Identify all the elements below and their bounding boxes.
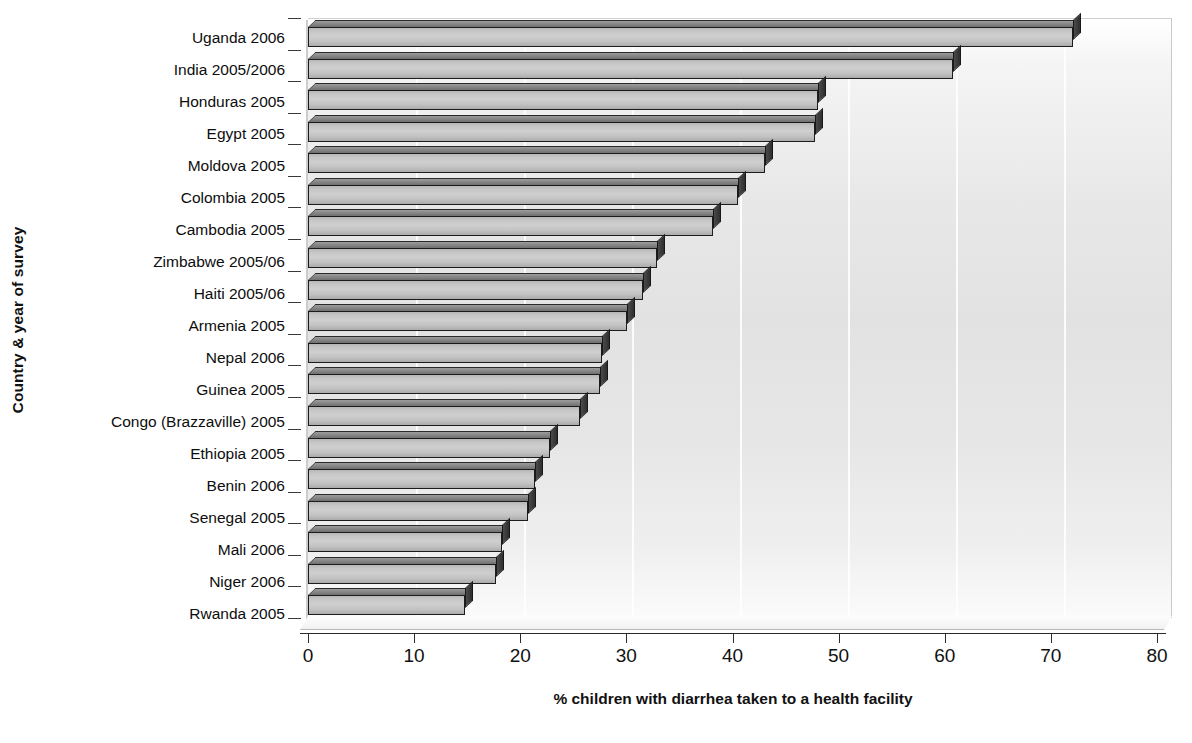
bar[interactable] — [308, 460, 543, 492]
bar-top-face — [308, 115, 822, 122]
bar[interactable] — [308, 397, 588, 429]
bar[interactable] — [308, 207, 721, 239]
y-tick-mark — [288, 207, 301, 208]
bar-front-face — [308, 153, 765, 173]
bar[interactable] — [308, 555, 504, 587]
bar[interactable] — [308, 81, 826, 113]
category-label: Congo (Brazzaville) 2005 — [36, 406, 294, 438]
y-tick-mark — [288, 523, 301, 524]
category-label: Rwanda 2005 — [36, 598, 294, 630]
plot-floor — [300, 616, 1172, 630]
bar-front-face — [308, 248, 657, 268]
bar-top-face — [308, 273, 651, 280]
bar[interactable] — [308, 271, 651, 303]
bar-top-face — [308, 146, 773, 153]
bar-side-face — [1073, 13, 1081, 40]
bar-side-face — [713, 202, 721, 229]
bar-row — [308, 492, 1172, 524]
bar[interactable] — [308, 50, 961, 82]
gridline — [1172, 19, 1174, 618]
bar[interactable] — [308, 239, 665, 271]
y-tick-mark — [288, 334, 301, 335]
y-tick-mark — [288, 176, 301, 177]
bar-top-face — [308, 178, 746, 185]
bar-top-face — [308, 336, 610, 343]
y-axis-title-text: Country & year of survey — [9, 227, 27, 414]
y-tick-mark — [288, 50, 301, 51]
category-label: Honduras 2005 — [36, 86, 294, 118]
bar-front-face — [308, 343, 602, 363]
x-tick-mark — [733, 633, 734, 643]
bar-front-face — [308, 90, 818, 110]
bar[interactable] — [308, 429, 558, 461]
bar-front-face — [308, 564, 496, 584]
bar-top-face — [308, 557, 504, 564]
bar[interactable] — [308, 302, 635, 334]
x-tick-label: 10 — [384, 645, 444, 667]
y-tick-mark — [288, 239, 301, 240]
bar-front-face — [308, 280, 643, 300]
bar[interactable] — [308, 492, 536, 524]
bar-top-face — [308, 52, 961, 59]
x-tick-label: 50 — [809, 645, 869, 667]
bar[interactable] — [308, 586, 473, 618]
bar-front-face — [308, 311, 627, 331]
bar[interactable] — [308, 365, 608, 397]
bar-row — [308, 207, 1172, 239]
bar[interactable] — [308, 144, 773, 176]
bar-front-face — [308, 595, 465, 615]
y-tick-mark — [288, 429, 301, 430]
y-tick-mark — [288, 113, 301, 114]
bar-row — [308, 460, 1172, 492]
category-label: Colombia 2005 — [36, 182, 294, 214]
bar-top-face — [308, 525, 510, 532]
x-tick-mark — [520, 633, 521, 643]
bar-row — [308, 555, 1172, 587]
y-tick-mark — [288, 492, 301, 493]
category-label: Senegal 2005 — [36, 502, 294, 534]
bar-row — [308, 365, 1172, 397]
x-tick-label: 80 — [1127, 645, 1187, 667]
bar-top-face — [308, 588, 472, 595]
y-tick-mark — [288, 18, 301, 19]
category-label: Guinea 2005 — [36, 374, 294, 406]
y-tick-mark — [288, 144, 301, 145]
category-label: Egypt 2005 — [36, 118, 294, 150]
bar-row — [308, 18, 1172, 50]
bar[interactable] — [308, 18, 1081, 50]
bar[interactable] — [308, 334, 610, 366]
bar-row — [308, 397, 1172, 429]
bar-top-face — [308, 494, 536, 501]
y-tick-mark — [288, 555, 301, 556]
bar-top-face — [308, 241, 665, 248]
x-tick-mark — [1051, 633, 1052, 643]
bar-front-face — [308, 185, 738, 205]
y-axis-category-labels: Uganda 2006India 2005/2006Honduras 2005E… — [36, 22, 294, 630]
x-tick-label: 60 — [915, 645, 975, 667]
bar-row — [308, 271, 1172, 303]
bar-row — [308, 239, 1172, 271]
bar-front-face — [308, 469, 535, 489]
bar[interactable] — [308, 113, 823, 145]
bar-top-face — [308, 304, 634, 311]
bar-top-face — [308, 399, 588, 406]
category-label: Armenia 2005 — [36, 310, 294, 342]
y-tick-mark — [288, 365, 301, 366]
bar-top-face — [308, 431, 558, 438]
y-tick-mark — [288, 618, 301, 619]
bar[interactable] — [308, 176, 746, 208]
bar-front-face — [308, 59, 953, 79]
x-tick-mark — [308, 633, 309, 643]
bar-top-face — [308, 20, 1080, 27]
y-tick-mark — [288, 302, 301, 303]
x-tick-label: 0 — [278, 645, 338, 667]
bar-front-face — [308, 374, 600, 394]
category-label: Haiti 2005/06 — [36, 278, 294, 310]
bar-top-face — [308, 209, 721, 216]
y-axis-title: Country & year of survey — [0, 0, 36, 640]
y-tick-mark — [288, 397, 301, 398]
category-label: Mali 2006 — [36, 534, 294, 566]
bar-front-face — [308, 532, 502, 552]
bar[interactable] — [308, 523, 510, 555]
y-tick-mark — [288, 586, 301, 587]
